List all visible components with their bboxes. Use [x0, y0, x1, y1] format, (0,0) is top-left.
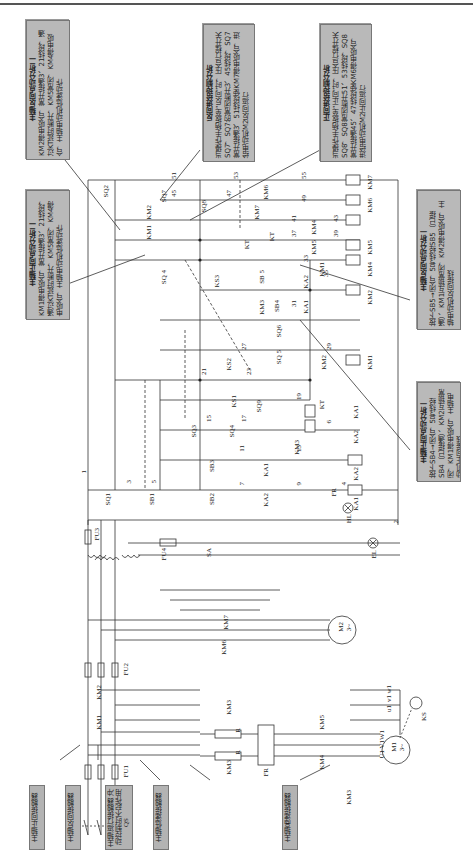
wire-17: 17 [240, 415, 248, 422]
label-m1-phase: 3~ [398, 744, 406, 751]
label-ks3: KS3 [213, 275, 221, 287]
label-sq4: SQ4 [228, 425, 236, 437]
wire-13: 13 [295, 445, 303, 452]
label-km5-coil: KM5 [366, 240, 374, 255]
wire-21: 21 [200, 368, 208, 375]
label-km5: KM5 [318, 715, 326, 730]
label-km4-coil: KM4 [366, 262, 374, 277]
label-m1: M1 [390, 742, 398, 752]
label-sq9: SQ9 [255, 400, 263, 412]
note-title: 主轴正向点动分析一 [420, 386, 429, 478]
label-qs: QS [122, 818, 130, 827]
label-ks1: KS1 [230, 395, 238, 407]
label-ka2-upper: KA2 [302, 275, 310, 289]
label-kt-contact-2: KT [268, 232, 276, 241]
note-title: 正向进给控制分析 [323, 28, 332, 158]
wire-23: 23 [245, 368, 253, 375]
wire-51: 51 [170, 172, 178, 179]
label-km1-interlock: KM1 [145, 225, 153, 240]
label-fu1: FU1 [122, 765, 130, 777]
note-title: 主轴反向点动分析一 [420, 194, 429, 326]
tag-km1-forward-contactor: 主轴正向接触器 [29, 785, 45, 850]
label-u1: U1 [378, 750, 386, 759]
label-km6-contact: KM6 [262, 185, 270, 200]
note-body: 当操作手柄扳至“正向”时，压合行程开关SQ8，SQ8常闭断开51、53线段，SQ… [332, 32, 367, 158]
note-spindle-reverse-jog-1: 主轴反向点动分析一 按下SB5→闭合，5号线经SB5（已接通）、KM1互锁常闭，… [417, 190, 461, 330]
label-km6-coil: KM6 [366, 198, 374, 213]
label-ka1-coil: KA1 [352, 497, 360, 511]
note-spindle-forward-jog-1: 主轴正向点动分析一 按下SB4→闭合，5号线经SB4（已接通）、KM2互锁常闭，… [417, 382, 461, 482]
label-u1-lower: u1 [385, 705, 393, 712]
wire-55: 55 [300, 172, 308, 179]
wire-29: 29 [325, 343, 333, 350]
label-km7-contact: KM7 [253, 205, 261, 220]
label-m2: M2 [337, 622, 345, 632]
wire-7: 7 [238, 482, 246, 486]
wire-11: 11 [238, 445, 246, 452]
label-fu4: FU4 [160, 548, 168, 560]
label-el: EL [370, 550, 378, 559]
tag-km5-high-speed-contactor: 主轴高速接触器 [282, 785, 298, 850]
wire-35: 35 [322, 270, 330, 277]
note-reverse-feed-control: 反向进给控制分析 当操作手柄扳至“反向”时，压合行程开关SQ7，SQ7的常闭断开… [203, 24, 255, 162]
wire-39: 39 [332, 230, 340, 237]
label-ka2-coil: KA2 [352, 467, 360, 481]
wire-15: 15 [205, 415, 213, 422]
note-spindle-reverse-jog-2: 主轴反向点动分析二 KM2得电吸合，常开接通3、21线段，通过KT延时断开，KM… [26, 20, 70, 160]
label-km4: KM4 [318, 755, 326, 770]
wire-9: 9 [295, 482, 303, 486]
label-ks2: KS2 [225, 358, 233, 370]
tag-km4-low-speed-contactor: 主轴低速接触器 [153, 785, 169, 850]
wire-6: 6 [325, 420, 333, 424]
wire-5: 5 [150, 480, 158, 484]
label-sq7: SQ7 [160, 190, 168, 202]
label-sa: SA [205, 548, 213, 557]
wire-1: 1 [80, 470, 88, 474]
label-km5-contact: KM5 [310, 240, 318, 255]
wire-47: 47 [225, 190, 233, 197]
wire-53: 53 [232, 172, 240, 179]
wire-4: 4 [340, 482, 348, 486]
label-fr-contact: FR [330, 488, 338, 497]
wire-19: 19 [295, 393, 303, 400]
note-body: 按下SB5→闭合，5号线经SB5（已接通）、KM1互锁常闭，KM2得电吸合，主轴… [429, 201, 455, 326]
label-km2-interlock: KM2 [145, 205, 153, 220]
label-km2-contact: KM2 [320, 355, 328, 370]
label-sq5: SQ 5 [275, 350, 283, 364]
label-km2: KM2 [95, 685, 103, 700]
label-sb2: SB2 [208, 493, 216, 505]
wire-41: 41 [290, 215, 298, 222]
tag-km2-reverse-contactor: 主轴反向接触器 [65, 785, 81, 850]
label-v1-lower: v1 [385, 695, 393, 702]
label-km3-contact: KM3 [258, 300, 266, 315]
label-sb5: SB 5 [258, 270, 266, 284]
label-w1: W1 [378, 730, 386, 740]
wire-31: 31 [290, 300, 298, 307]
wire-49: 49 [300, 195, 308, 202]
wire-2: 2 [392, 520, 400, 524]
label-ks: KS [420, 712, 428, 721]
label-km1: KM1 [95, 715, 103, 730]
wire-37: 37 [290, 230, 298, 237]
wire-43: 43 [332, 215, 340, 222]
label-km3-side: KM3 [345, 790, 353, 805]
label-sq1: SQ1 [104, 493, 112, 505]
label-km2-coil: KM2 [366, 290, 374, 305]
label-sq4-upper: SQ 4 [160, 270, 168, 284]
label-sq8: SQ8 [200, 200, 208, 212]
label-kt-coil: KT [318, 400, 326, 409]
label-v1: V1 [378, 740, 386, 749]
note-spindle-forward-jog-2: 主轴正向点动分析二 KM1得电吸合，常开接通3、21线段，通过KT延时断开，KM… [26, 190, 70, 320]
label-km7: KM7 [222, 615, 230, 630]
label-sb1: SB1 [148, 493, 156, 505]
label-km1-coil: KM1 [366, 355, 374, 370]
label-km3-top: KM3 [225, 700, 233, 715]
label-r2: R [234, 750, 242, 755]
label-w1-lower: w1 [385, 685, 393, 694]
wire-27: 27 [240, 343, 248, 350]
label-sb4: SB4 [273, 300, 281, 312]
label-fu3: FU3 [93, 528, 101, 540]
label-sq2: SQ2 [102, 185, 110, 197]
note-body: KM2得电吸合，常开接通3、21线段，通过KT延时断开，KM5常闭，KM4得电吸… [38, 30, 64, 156]
note-forward-feed-control: 正向进给控制分析 当操作手柄扳至“正向”时，压合行程开关SQ8，SQ8常闭断开5… [320, 24, 372, 162]
